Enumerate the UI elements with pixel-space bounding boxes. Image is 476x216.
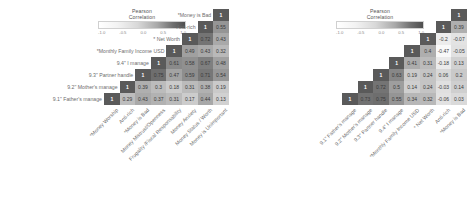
matrix-row-label: 9.3" Partner handle	[89, 72, 134, 79]
matrix-diagonal-cell: 1	[135, 69, 151, 81]
matrix-cell: -0.47	[436, 45, 452, 57]
matrix-cell: -0.2	[436, 33, 452, 45]
matrix-diagonal-cell: 1	[166, 45, 182, 57]
matrix-diagonal-cell: 1	[182, 33, 198, 45]
heatmap-panel-left: Pearson Correlation -1.0 -0.5 0.0 0.5 1.…	[0, 0, 238, 216]
matrix-cell: -0.18	[436, 57, 452, 69]
matrix-diagonal-cell: 1	[389, 57, 405, 69]
matrix-cell: 0.72	[198, 33, 214, 45]
matrix-row-label: 9.2" Mother's manage	[67, 84, 117, 91]
matrix-cell: -0.07	[451, 33, 467, 45]
matrix-cell: 0.43	[213, 33, 229, 45]
matrix-row-label: 9.4" I manage	[117, 60, 149, 67]
matrix-cell: 0.47	[166, 69, 182, 81]
colorbar-tick: 0.5	[160, 30, 166, 35]
matrix-cell: 0.55	[213, 21, 229, 33]
figure-canvas: Pearson Correlation -1.0 -0.5 0.0 0.5 1.…	[0, 0, 476, 216]
matrix-diagonal-cell: 1	[198, 21, 214, 33]
colorbar-tick: 0.0	[140, 30, 146, 35]
colorbar-gradient	[336, 21, 424, 29]
matrix-row-label: *Money is Bad	[178, 12, 211, 19]
matrix-cell: 0.32	[213, 45, 229, 57]
matrix-cell: 0.49	[182, 45, 198, 57]
matrix-diagonal-cell: 1	[451, 9, 467, 21]
matrix-cell: 0.41	[404, 57, 420, 69]
colorbar-tick: -0.5	[357, 30, 364, 35]
matrix-cell: 0.43	[198, 45, 214, 57]
colorbar-ticks: -1.0 -0.5 0.0 0.5 1.0	[336, 30, 424, 35]
matrix-cell: 0.75	[151, 69, 167, 81]
matrix-cell: 0.61	[166, 57, 182, 69]
matrix-row-label: * Net Worth	[153, 36, 180, 43]
colorbar-ticks: -1.0 -0.5 0.0 0.5 1.0	[98, 30, 186, 35]
colorbar-tick: 0.5	[398, 30, 404, 35]
matrix-cell: 0.24	[420, 69, 436, 81]
matrix-row-label: Anti-rich	[177, 24, 196, 31]
colorbar-legend-left: Pearson Correlation -1.0 -0.5 0.0 0.5 1.…	[98, 8, 186, 35]
matrix-diagonal-cell: 1	[213, 9, 229, 21]
colorbar-legend-right: Pearson Correlation -1.0 -0.5 0.0 0.5 1.…	[336, 8, 424, 35]
matrix-cell: 0.39	[451, 21, 467, 33]
colorbar-tick: 0.0	[378, 30, 384, 35]
matrix-cell: 0.4	[420, 45, 436, 57]
heatmap-panel-right: Pearson Correlation -1.0 -0.5 0.0 0.5 1.…	[238, 0, 476, 216]
legend-title-line2: Correlation	[336, 14, 424, 20]
matrix-row-label: 9.1" Father's manage	[53, 96, 102, 103]
matrix-cell: -0.05	[451, 45, 467, 57]
colorbar-tick: -1.0	[336, 30, 343, 35]
matrix-diagonal-cell: 1	[420, 33, 436, 45]
colorbar-tick: -0.5	[119, 30, 126, 35]
matrix-diagonal-cell: 1	[436, 21, 452, 33]
matrix-diagonal-cell: 1	[404, 45, 420, 57]
colorbar-tick: -1.0	[98, 30, 105, 35]
matrix-cell: 0.58	[182, 57, 198, 69]
legend-title-line2: Correlation	[98, 14, 186, 20]
colorbar-gradient	[98, 21, 186, 29]
matrix-diagonal-cell: 1	[151, 57, 167, 69]
matrix-row-label: *Monthly Family Income USD	[97, 48, 165, 55]
matrix-cell: 0.31	[420, 57, 436, 69]
